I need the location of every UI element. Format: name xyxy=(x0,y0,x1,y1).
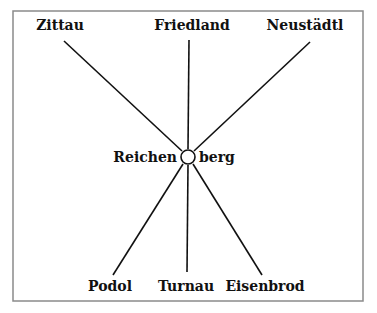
line-eisenbrod xyxy=(193,164,262,275)
label-friedland: Friedland xyxy=(154,17,230,33)
radial-diagram: Zittau Friedland Neustädtl Reichen berg … xyxy=(0,0,377,313)
label-neustadtl: Neustädtl xyxy=(267,17,344,33)
label-eisenbrod: Eisenbrod xyxy=(225,278,304,294)
line-turnau xyxy=(187,165,188,272)
center-label-left: Reichen xyxy=(113,149,177,165)
line-neustadtl xyxy=(194,42,310,151)
line-zittau xyxy=(64,41,182,151)
label-podol: Podol xyxy=(88,278,132,294)
label-zittau: Zittau xyxy=(36,17,84,33)
label-turnau: Turnau xyxy=(158,278,214,294)
center-label-right: berg xyxy=(199,149,235,165)
line-friedland xyxy=(188,40,189,149)
line-podol xyxy=(113,164,183,275)
center-node-circle xyxy=(181,150,195,164)
